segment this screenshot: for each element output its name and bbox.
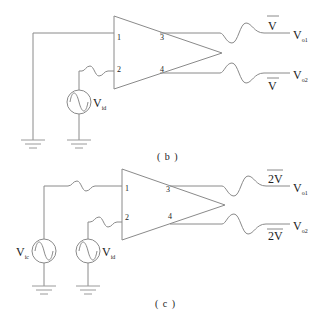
output-2-amplitude: 2V xyxy=(268,229,283,243)
output-1-sine xyxy=(220,23,264,43)
output-1-amplitude: V xyxy=(268,19,277,33)
pin-1-label: 1 xyxy=(125,184,129,193)
input-1-sine xyxy=(68,181,95,191)
amplifier-triangle xyxy=(114,16,222,89)
panel-c: 1 2 3 4 Vic Vid xyxy=(16,169,308,310)
output-label-vo1: Vo1 xyxy=(293,28,308,43)
output-1-sine xyxy=(222,176,266,196)
input-1-wire-down xyxy=(44,186,68,239)
output-label-vo2: Vo2 xyxy=(293,219,308,234)
ac-source-icon xyxy=(76,239,100,263)
input-2-sine xyxy=(90,217,117,227)
output-2-sine xyxy=(220,63,264,83)
ac-source-icon xyxy=(32,239,56,263)
pin-4-label: 4 xyxy=(168,212,172,221)
source-label-vic: Vic xyxy=(16,245,29,260)
pin-3-label: 3 xyxy=(166,185,170,194)
input-1-wire xyxy=(33,33,114,140)
input-2-wire-down xyxy=(88,222,90,239)
ground-icon xyxy=(21,140,45,148)
ground-icon xyxy=(67,140,91,148)
output-2-sine xyxy=(222,214,266,234)
amplifier-triangle xyxy=(122,169,225,240)
output-label-vo2: Vo2 xyxy=(293,68,308,83)
input-2-wire-down xyxy=(79,71,82,90)
panel-b: 1 2 3 4 Vid V Vo xyxy=(21,16,308,163)
ground-icon xyxy=(76,286,100,294)
output-2-amplitude: V xyxy=(268,79,277,93)
pin-1-label: 1 xyxy=(117,33,121,42)
caption-b: ( b ) xyxy=(157,151,179,163)
pin-2-label: 2 xyxy=(117,65,121,74)
source-label-vid: Vid xyxy=(102,245,115,260)
output-1-amplitude: 2V xyxy=(268,172,283,186)
caption-c: ( c ) xyxy=(155,298,176,310)
ac-source-icon xyxy=(67,90,91,114)
diagram-canvas: 1 2 3 4 Vid V Vo xyxy=(0,0,324,330)
source-label-vid: Vid xyxy=(93,96,106,111)
pin-3-label: 3 xyxy=(160,33,164,42)
ground-icon xyxy=(32,286,56,294)
pin-2-label: 2 xyxy=(125,213,129,222)
output-label-vo1: Vo1 xyxy=(293,181,308,196)
input-2-sine xyxy=(82,66,108,76)
